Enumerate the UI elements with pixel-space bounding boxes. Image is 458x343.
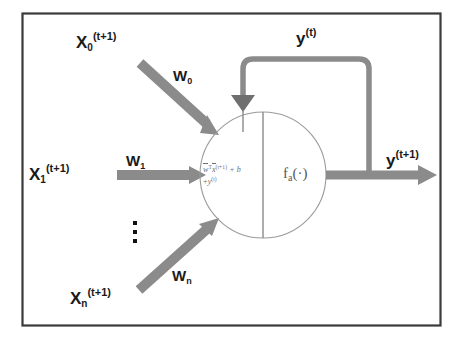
weight-label-w1: W1	[126, 153, 145, 169]
weight-label-w0: W0	[173, 68, 192, 84]
input-label-x1: X1(t+1)	[29, 166, 69, 183]
input-label-x1-subscript: 1	[40, 174, 46, 185]
input-ellipsis	[133, 221, 137, 243]
input-label-x0-subscript: 0	[87, 42, 93, 53]
activation-arg: (·)	[292, 165, 307, 181]
weight-label-w1-base: W	[126, 152, 140, 169]
forward-output-superscript: (t+1)	[395, 148, 419, 160]
ellipsis-dot	[133, 230, 137, 234]
activation-subscript: a	[288, 172, 292, 183]
weight-label-wn: Wn	[172, 268, 192, 284]
formula-input-vector: x	[212, 164, 216, 176]
input-label-x1-base: X	[29, 165, 40, 184]
input-label-xn-base: X	[70, 289, 81, 308]
input-label-x0-base: X	[76, 33, 87, 52]
ellipsis-dot	[133, 221, 137, 225]
input-label-xn-subscript: n	[81, 298, 87, 309]
activation-function-label: fa(·)	[283, 166, 307, 181]
weight-label-w1-subscript: 1	[140, 161, 145, 171]
input-label-xn: Xn(t+1)	[70, 290, 111, 307]
ellipsis-dot	[133, 239, 137, 243]
feedback-output-superscript: (t)	[305, 26, 316, 38]
forward-output-label: y(t+1)	[386, 152, 419, 169]
formula-line-1: wTx(t+1) + b	[203, 164, 241, 176]
weight-label-wn-base: W	[172, 267, 186, 284]
formula-prev-output-superscript: (t)	[211, 176, 217, 182]
diagram-canvas: X0(t+1) W0 X1(t+1) W1 Wn Xn(t+1) y(t) y(…	[0, 0, 458, 343]
formula-bias-term: + b	[229, 165, 241, 174]
input-label-xn-superscript: (t+1)	[87, 286, 111, 298]
weight-label-w0-subscript: 0	[187, 76, 192, 86]
weight-label-w0-base: W	[173, 67, 187, 84]
feedback-output-label: y(t)	[296, 30, 316, 47]
input-label-x1-superscript: (t+1)	[46, 162, 70, 174]
input-label-x0: X0(t+1)	[76, 34, 116, 51]
formula-line-2: +y(t)	[203, 176, 241, 188]
input-label-x0-superscript: (t+1)	[93, 30, 117, 42]
formula-input-superscript: (t+1)	[216, 164, 228, 170]
neuron-summation-formula: wTx(t+1) + b +y(t)	[203, 164, 241, 187]
weight-label-wn-subscript: n	[186, 276, 192, 286]
